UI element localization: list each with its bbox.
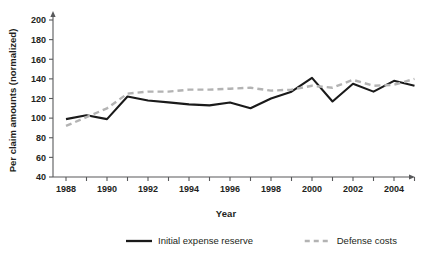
x-tick-label: 1992 — [138, 184, 158, 194]
y-axis-ticks: 406080100120140160180200 — [31, 15, 53, 182]
y-tick-label: 200 — [31, 15, 46, 25]
x-tick-label: 2000 — [302, 184, 322, 194]
series-line-2 — [66, 79, 415, 126]
x-tick-label: 1998 — [261, 184, 281, 194]
y-tick-label: 40 — [36, 172, 46, 182]
x-tick-label: 1988 — [56, 184, 76, 194]
data-series-lines — [66, 78, 415, 126]
chart-legend: Initial expense reserveDefense costs — [126, 235, 397, 246]
y-tick-label: 160 — [31, 55, 46, 65]
x-tick-label: 2004 — [384, 184, 404, 194]
x-tick-label: 1990 — [97, 184, 117, 194]
y-tick-label: 180 — [31, 35, 46, 45]
series-line-1 — [66, 78, 415, 119]
y-tick-label: 140 — [31, 74, 46, 84]
x-tick-label: 2002 — [343, 184, 363, 194]
legend-label-1: Initial expense reserve — [158, 235, 253, 246]
x-tick-label: 1994 — [179, 184, 199, 194]
y-tick-label: 80 — [36, 133, 46, 143]
y-tick-label: 120 — [31, 94, 46, 104]
chart-plot-area: 406080100120140160180200 198819901992199… — [0, 0, 432, 264]
y-tick-label: 100 — [31, 113, 46, 123]
x-tick-label: 1996 — [220, 184, 240, 194]
y-tick-label: 60 — [36, 153, 46, 163]
x-axis-title: Year — [216, 208, 237, 219]
chart-container: Per claim amounts (normalized) 406080100… — [0, 0, 432, 264]
axis-lines — [50, 11, 415, 180]
x-axis-ticks: 198819901992199419961998200020022004 — [56, 177, 415, 194]
legend-label-2: Defense costs — [337, 235, 397, 246]
